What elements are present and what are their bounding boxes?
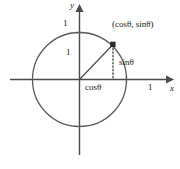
point-marker [110,42,115,47]
radius-length-label: 1 [66,48,71,57]
y-axis-arrowhead [76,4,84,12]
sine-label: sinθ [119,58,134,67]
radius-segment [80,45,114,80]
point-coordinates-label: (cosθ, sinθ) [112,20,154,29]
cosine-label: cosθ [85,83,101,92]
x-axis-tick-label-1: 1 [148,83,153,92]
x-axis-label: x [170,84,174,93]
y-axis-tick-label-1: 1 [63,19,68,28]
unit-circle-figure: y x 1 1 1 cosθ sinθ (cosθ, sinθ) [0,0,180,169]
y-axis-label: y [70,1,74,10]
